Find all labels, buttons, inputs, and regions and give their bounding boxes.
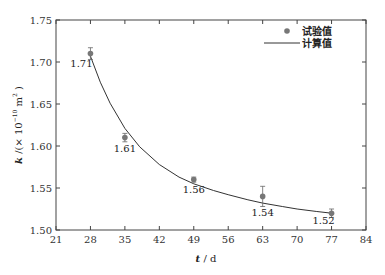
x-tick-label: 42 [153,234,166,245]
x-tick-label: 49 [187,234,200,245]
y-tick-label: 1.65 [30,99,52,110]
plot-border [56,20,366,230]
x-tick-label: 70 [291,234,304,245]
x-tick-label: 56 [222,234,235,245]
x-axis-label: t / d [196,253,217,264]
x-tick-label: 63 [256,234,269,245]
y-tick-label: 1.70 [30,57,52,68]
legend-label-calculated: 计算值 [302,37,332,49]
legend: 试验值 计算值 [264,25,332,49]
legend-marker-experimental [284,28,290,34]
data-point-label: 1.71 [70,58,92,69]
calculated-curve [90,56,331,213]
calculated-line [90,56,331,213]
y-tick-label: 1.75 [30,15,52,26]
data-point [122,135,128,141]
data-point [88,51,94,57]
y-tick-label: 1.55 [30,183,52,194]
y-tick-label: 1.60 [30,141,52,152]
y-axis-label: k /(× 10−10 m2 ) [11,86,24,164]
data-point-label: 1.52 [312,215,334,226]
x-tick-label: 35 [119,234,132,245]
legend-label-experimental: 试验值 [302,25,332,37]
data-point-label: 1.56 [183,184,205,195]
x-tick-label: 21 [50,234,63,245]
data-point [191,177,197,183]
plot-frame [56,20,366,230]
data-point-label: 1.61 [114,143,136,154]
x-tick-label: 28 [84,234,97,245]
x-axis-ticks: 21283542495663707784 [50,20,373,245]
experimental-points: 1.711.611.561.541.52 [70,48,334,226]
data-point-label: 1.54 [252,207,274,218]
chart-canvas: 1.501.551.601.651.701.75 212835424956637… [0,0,385,275]
x-tick-label: 77 [325,234,338,245]
data-point [260,194,266,200]
x-tick-label: 84 [360,234,373,245]
